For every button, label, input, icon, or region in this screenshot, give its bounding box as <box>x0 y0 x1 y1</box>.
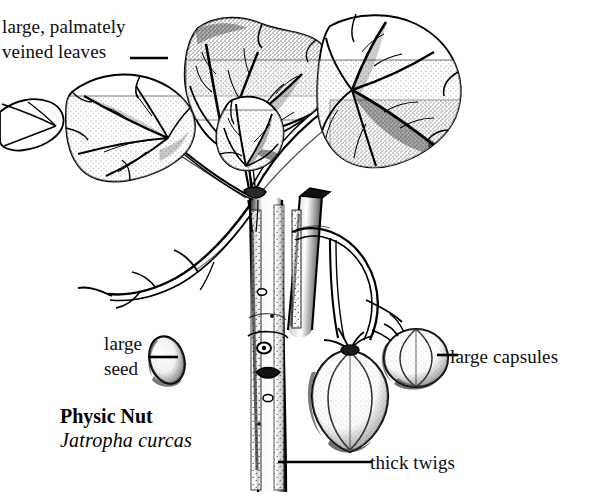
seed-oval <box>144 332 190 388</box>
label-large-capsules: large capsules <box>450 344 558 369</box>
scientific-name: Jatropha curcas <box>60 428 192 452</box>
palmate-leaf <box>64 75 198 186</box>
thick-stem <box>248 194 288 492</box>
fruit-capsule <box>308 328 388 453</box>
left-branch <box>78 205 252 308</box>
label-large-seed: large seed <box>104 331 142 381</box>
label-large-palmately-veined-leaves: large, palmately veined leaves <box>2 14 126 64</box>
fruit-capsule <box>382 314 448 390</box>
label-thick-twigs: thick twigs <box>370 450 455 475</box>
species-name-block: Physic Nut Jatropha curcas <box>60 404 192 452</box>
common-name: Physic Nut <box>60 404 192 428</box>
illustration-plate: large, palmately veined leaves large see… <box>0 0 593 503</box>
cut-branch-stub <box>288 188 330 338</box>
palmate-leaf <box>316 14 472 172</box>
